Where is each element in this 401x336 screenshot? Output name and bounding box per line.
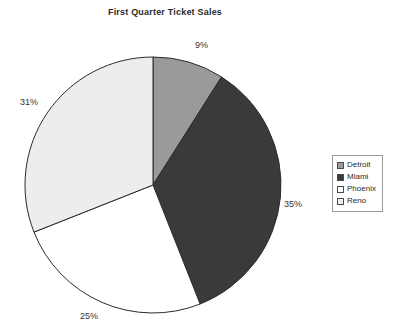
slice-label-miami: 35% [284,199,302,209]
legend-label-detroit: Detroit [347,161,371,169]
legend-swatch-detroit-icon [337,162,344,169]
legend-item-detroit[interactable]: Detroit [337,159,378,171]
legend-label-miami: Miami [347,173,368,181]
legend-swatch-phoenix-icon [337,186,344,193]
legend-item-phoenix[interactable]: Phoenix [337,183,378,195]
slice-label-reno: 31% [20,97,38,107]
legend-swatch-miami-icon [337,174,344,181]
legend-item-reno[interactable]: Reno [337,195,378,207]
pie-chart-figure: First Quarter Ticket Sales 9% 35% 25% 31… [0,0,401,336]
pie-slice-group [25,57,281,313]
legend-label-phoenix: Phoenix [347,185,376,193]
legend-swatch-reno-icon [337,198,344,205]
slice-label-phoenix: 25% [80,311,98,321]
legend-label-reno: Reno [347,197,366,205]
pie-svg [0,0,330,336]
slice-label-detroit: 9% [195,40,208,50]
pie-plot-area [0,0,330,336]
chart-legend: DetroitMiamiPhoenixReno [332,155,383,212]
legend-item-miami[interactable]: Miami [337,171,378,183]
